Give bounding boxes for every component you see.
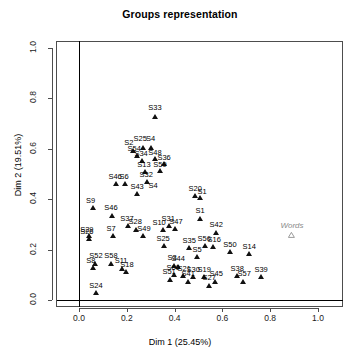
x-tick-label: 0.6 bbox=[202, 313, 242, 323]
data-point-marker bbox=[108, 261, 114, 266]
x-tick-label: 0.2 bbox=[107, 313, 147, 323]
y-axis-title: Dim 2 (19.51%) bbox=[13, 95, 23, 235]
data-point-marker bbox=[122, 181, 128, 186]
data-point-label: S34 bbox=[134, 150, 147, 158]
data-point-label: S27 bbox=[203, 274, 216, 282]
data-point-label: S43 bbox=[130, 183, 143, 191]
vertical-zero-line bbox=[79, 41, 80, 307]
data-point-marker bbox=[157, 168, 163, 173]
data-point-marker bbox=[90, 265, 96, 270]
y-tick bbox=[48, 149, 52, 150]
data-point-marker bbox=[110, 233, 116, 238]
data-point-label: S16 bbox=[208, 236, 221, 244]
data-point-marker bbox=[197, 216, 203, 221]
data-point-label: S57 bbox=[237, 270, 250, 278]
data-point-label: S44 bbox=[171, 255, 184, 263]
data-point-marker bbox=[93, 290, 99, 295]
data-point-label: S13 bbox=[137, 161, 150, 169]
data-point-label: S59 bbox=[153, 161, 166, 169]
data-point-label: S33 bbox=[148, 104, 161, 112]
x-tick bbox=[270, 308, 271, 312]
plot-area: 0.00.20.40.60.81.00.00.20.40.60.81.0S33S… bbox=[0, 0, 360, 362]
y-axis-line bbox=[52, 48, 53, 300]
data-point-marker bbox=[167, 277, 173, 282]
data-point-marker bbox=[161, 243, 167, 248]
data-point-marker bbox=[90, 205, 96, 210]
data-point-label: S7 bbox=[106, 225, 115, 233]
x-tick bbox=[318, 308, 319, 312]
data-point-label: S14 bbox=[242, 243, 255, 251]
chart-root: Groups representation 0.00.20.40.60.81.0… bbox=[0, 0, 360, 362]
x-tick bbox=[79, 308, 80, 312]
x-tick bbox=[222, 308, 223, 312]
data-point-label: S18 bbox=[120, 261, 133, 269]
data-point-marker bbox=[258, 274, 264, 279]
x-axis-line bbox=[79, 308, 318, 309]
data-point-label: S32 bbox=[139, 171, 152, 179]
data-point-label: S1 bbox=[196, 207, 205, 215]
data-point-marker bbox=[113, 181, 119, 186]
data-point-label: S50 bbox=[223, 241, 236, 249]
x-tick bbox=[127, 308, 128, 312]
words-marker bbox=[289, 232, 295, 237]
y-tick bbox=[48, 250, 52, 251]
y-tick bbox=[48, 300, 52, 301]
data-point-marker bbox=[152, 114, 158, 119]
data-point-label: S46 bbox=[104, 204, 117, 212]
y-tick-label: 0.8 bbox=[28, 82, 38, 112]
data-point-marker bbox=[240, 279, 246, 284]
data-point-label: S10 bbox=[152, 219, 165, 227]
data-point-label: S8 bbox=[86, 257, 95, 265]
data-point-marker bbox=[186, 245, 192, 250]
data-point-marker bbox=[246, 251, 252, 256]
data-point-label: S4 bbox=[148, 182, 157, 190]
y-tick bbox=[48, 199, 52, 200]
x-tick-label: 0.8 bbox=[250, 313, 290, 323]
horizontal-zero-line bbox=[57, 300, 343, 301]
data-point-label: S1 bbox=[197, 188, 206, 196]
y-tick bbox=[48, 98, 52, 99]
data-point-marker bbox=[210, 244, 216, 249]
y-tick-label: 0.2 bbox=[28, 234, 38, 264]
y-tick bbox=[48, 48, 52, 49]
y-tick-label: 0.6 bbox=[28, 133, 38, 163]
data-point-marker bbox=[134, 191, 140, 196]
data-point-label: S4 bbox=[146, 135, 155, 143]
y-tick-label: 1.0 bbox=[28, 32, 38, 62]
x-axis-title: Dim 1 (25.45%) bbox=[0, 337, 360, 347]
data-point-marker bbox=[140, 233, 146, 238]
data-point-marker bbox=[123, 269, 129, 274]
x-tick-label: 1.0 bbox=[298, 313, 338, 323]
data-point-label: S26 bbox=[80, 228, 93, 236]
x-tick-label: 0.4 bbox=[155, 313, 195, 323]
data-point-label: S41 bbox=[182, 270, 195, 278]
data-point-label: S5 bbox=[192, 246, 201, 254]
data-point-label: S9 bbox=[86, 197, 95, 205]
data-point-marker bbox=[172, 226, 178, 231]
data-point-label: S47 bbox=[169, 218, 182, 226]
data-point-label: S25 bbox=[156, 235, 169, 243]
data-point-label: S42 bbox=[209, 221, 222, 229]
x-tick-label: 0.0 bbox=[59, 313, 99, 323]
data-point-marker bbox=[206, 283, 212, 288]
data-point-marker bbox=[194, 254, 200, 259]
y-tick-label: 0.4 bbox=[28, 183, 38, 213]
data-point-label: S6 bbox=[120, 173, 129, 181]
x-tick bbox=[175, 308, 176, 312]
data-point-label: S35 bbox=[182, 237, 195, 245]
y-tick-label: 0.0 bbox=[28, 284, 38, 314]
data-point-label: S39 bbox=[254, 266, 267, 274]
data-point-marker bbox=[227, 249, 233, 254]
data-point-marker bbox=[160, 227, 166, 232]
data-point-label: S51 bbox=[162, 268, 175, 276]
data-point-marker bbox=[109, 213, 115, 218]
data-point-marker bbox=[86, 236, 92, 241]
data-point-marker bbox=[185, 279, 191, 284]
words-label: Words bbox=[280, 221, 303, 230]
data-point-label: S25 bbox=[133, 135, 146, 143]
data-point-label: S24 bbox=[89, 282, 102, 290]
data-point-label: S49 bbox=[137, 225, 150, 233]
